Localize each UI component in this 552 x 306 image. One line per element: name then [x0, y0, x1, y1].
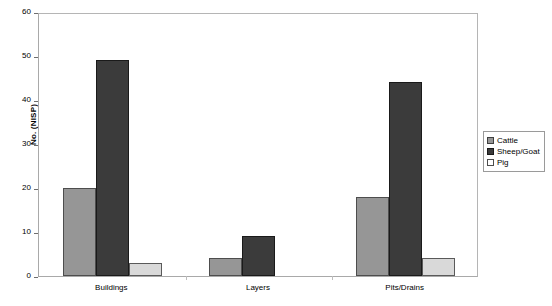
bar-group-bars — [39, 14, 186, 276]
x-axis-separator — [332, 276, 333, 280]
bar-sheep-goat-pits-drains — [389, 82, 422, 276]
y-axis-tick-label: 0 — [27, 271, 31, 280]
legend-item-label: Sheep/Goat — [497, 147, 540, 156]
legend-item-sheep-goat: Sheep/Goat — [487, 146, 540, 157]
y-axis-tick-mark — [34, 277, 38, 278]
x-axis-separator — [186, 276, 187, 280]
x-axis-label-pits-drains: Pits/Drains — [331, 283, 478, 292]
legend-item-label: Cattle — [497, 136, 518, 145]
bar-cattle-layers — [209, 258, 242, 276]
y-axis: 0102030405060 — [0, 0, 38, 306]
bar-sheep-goat-buildings — [96, 60, 129, 276]
legend-swatch-icon — [487, 148, 494, 155]
bar-cattle-buildings — [63, 188, 96, 276]
bar-sheep-goat-layers — [242, 236, 275, 276]
bar-group — [186, 14, 333, 276]
bar-group-bars — [186, 14, 333, 276]
legend-item-cattle: Cattle — [487, 135, 540, 146]
plot-area — [38, 13, 478, 277]
y-axis-tick-label: 20 — [22, 183, 31, 192]
legend-item-pig: Pig — [487, 157, 540, 168]
x-axis: BuildingsLayersPits/Drains — [38, 283, 478, 303]
y-axis-tick-label: 60 — [22, 7, 31, 16]
bar-group-bars — [332, 14, 479, 276]
bar-pig-pits-drains — [422, 258, 455, 276]
legend-swatch-icon — [487, 159, 494, 166]
x-axis-label-layers: Layers — [185, 283, 332, 292]
legend-swatch-icon — [487, 137, 494, 144]
y-axis-tick-label: 50 — [22, 51, 31, 60]
x-axis-label-buildings: Buildings — [38, 283, 185, 292]
legend-item-label: Pig — [497, 158, 509, 167]
y-axis-tick-label: 10 — [22, 227, 31, 236]
y-axis-tick-label: 30 — [22, 139, 31, 148]
bar-cattle-pits-drains — [356, 197, 389, 276]
bar-group — [332, 14, 479, 276]
bar-pig-buildings — [129, 263, 162, 276]
legend: CattleSheep/GoatPig — [483, 131, 545, 172]
y-axis-tick-label: 40 — [22, 95, 31, 104]
plot-inner — [39, 14, 477, 276]
bar-group — [39, 14, 186, 276]
bar-chart-figure: No. (NISP) 0102030405060 BuildingsLayers… — [0, 0, 552, 306]
